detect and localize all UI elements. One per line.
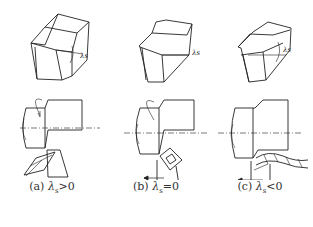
- panel-c: λs (c) λs<0: [208, 0, 312, 227]
- caption-symbol: λ: [256, 180, 263, 193]
- caption-a: (a) λs>0: [0, 180, 104, 195]
- caption-c: (c) λs<0: [208, 180, 312, 195]
- angle-label-c: λs: [282, 46, 291, 54]
- caption-relation: <0: [266, 180, 282, 193]
- caption-label: (c): [237, 180, 252, 193]
- angle-label-b: λs: [191, 49, 200, 57]
- tool-diagram-c: λs: [208, 0, 312, 180]
- panel-b: λs (b) λs=0: [104, 0, 208, 227]
- tool-diagram-b: λs: [104, 0, 208, 180]
- caption-label: (b): [133, 180, 149, 193]
- panel-a: λs (a) λs>0: [0, 0, 104, 227]
- caption-relation: >0: [59, 180, 75, 193]
- caption-label: (a): [29, 180, 44, 193]
- angle-label-a: λs: [79, 52, 88, 60]
- tool-diagram-a: λs: [0, 0, 104, 180]
- caption-relation: =0: [163, 180, 179, 193]
- caption-b: (b) λs=0: [104, 180, 208, 195]
- caption-symbol: λ: [48, 180, 55, 193]
